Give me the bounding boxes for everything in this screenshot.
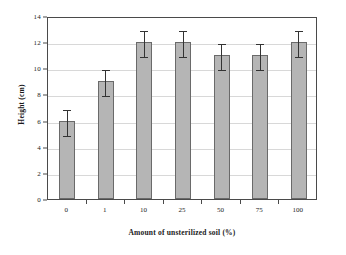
error-cap-bottom (102, 96, 110, 97)
y-tick-label: 14 (34, 13, 41, 21)
y-tick-label: 2 (37, 170, 41, 178)
error-cap-top (140, 31, 148, 32)
y-tick-label: 10 (34, 65, 41, 73)
bar (291, 42, 307, 199)
error-cap-bottom (63, 136, 71, 137)
y-tick-label: 6 (37, 118, 41, 126)
error-cap-bottom (218, 70, 226, 71)
x-tick-label: 0 (65, 206, 69, 214)
y-axis: 02468101214 (0, 17, 47, 200)
error-cap-bottom (140, 57, 148, 58)
error-bar (144, 31, 145, 57)
x-tick-mark (86, 200, 87, 204)
error-bar (298, 31, 299, 57)
error-cap-top (102, 70, 110, 71)
x-tick-label: 50 (217, 206, 224, 214)
bar (214, 55, 230, 199)
y-tick-label: 8 (37, 91, 41, 99)
bar (175, 42, 191, 199)
x-axis-title: Amount of unsterilized soil (%) (47, 228, 317, 237)
x-tick-label: 75 (256, 206, 263, 214)
x-tick-label: 1 (103, 206, 107, 214)
error-cap-bottom (295, 57, 303, 58)
x-tick-mark (201, 200, 202, 204)
x-tick-mark (278, 200, 279, 204)
plot-area (47, 17, 317, 200)
error-cap-bottom (256, 70, 264, 71)
x-tick-mark (240, 200, 241, 204)
error-cap-top (295, 31, 303, 32)
y-tick-label: 12 (34, 39, 41, 47)
bar (252, 55, 268, 199)
bar (98, 81, 114, 199)
error-cap-top (218, 44, 226, 45)
bar-chart: Height (cm) 02468101214 0110255075100 Am… (0, 0, 346, 255)
x-tick-label: 100 (292, 206, 303, 214)
x-tick-mark (124, 200, 125, 204)
error-bar (221, 44, 222, 70)
error-cap-top (256, 44, 264, 45)
bar (136, 42, 152, 199)
y-tick-label: 0 (37, 196, 41, 204)
error-bar (105, 70, 106, 96)
x-tick-label: 10 (140, 206, 147, 214)
error-cap-top (63, 110, 71, 111)
y-tick-label: 4 (37, 144, 41, 152)
error-cap-top (179, 31, 187, 32)
x-tick-label: 25 (179, 206, 186, 214)
error-bar (260, 44, 261, 70)
error-bar (183, 31, 184, 57)
error-cap-bottom (179, 57, 187, 58)
x-tick-mark (163, 200, 164, 204)
error-bar (67, 110, 68, 136)
